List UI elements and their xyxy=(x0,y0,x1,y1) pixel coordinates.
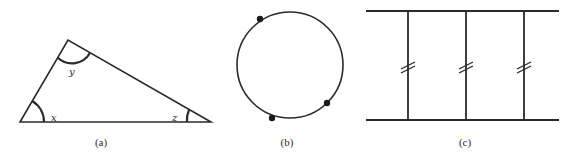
angle-arc-z xyxy=(187,110,189,122)
angle-arc-y xyxy=(58,53,90,63)
circle-point-3 xyxy=(269,115,275,121)
angle-label-x: x xyxy=(51,112,57,123)
caption-b: (b) xyxy=(281,136,294,149)
triangle-shape xyxy=(20,40,211,122)
circle-point-1 xyxy=(257,16,263,22)
figure-b-circle xyxy=(237,12,343,121)
angle-label-z: z xyxy=(171,112,178,123)
angle-label-y: y xyxy=(68,66,75,77)
figure-a-triangle xyxy=(20,40,211,122)
caption-a: (a) xyxy=(95,136,108,149)
circle-point-2 xyxy=(324,100,330,106)
angle-arc-x xyxy=(32,101,44,122)
caption-c: (c) xyxy=(459,136,472,149)
figure-c-parallels xyxy=(366,11,559,120)
figure-canvas: x y z (a) (b) (c) xyxy=(0,0,575,153)
